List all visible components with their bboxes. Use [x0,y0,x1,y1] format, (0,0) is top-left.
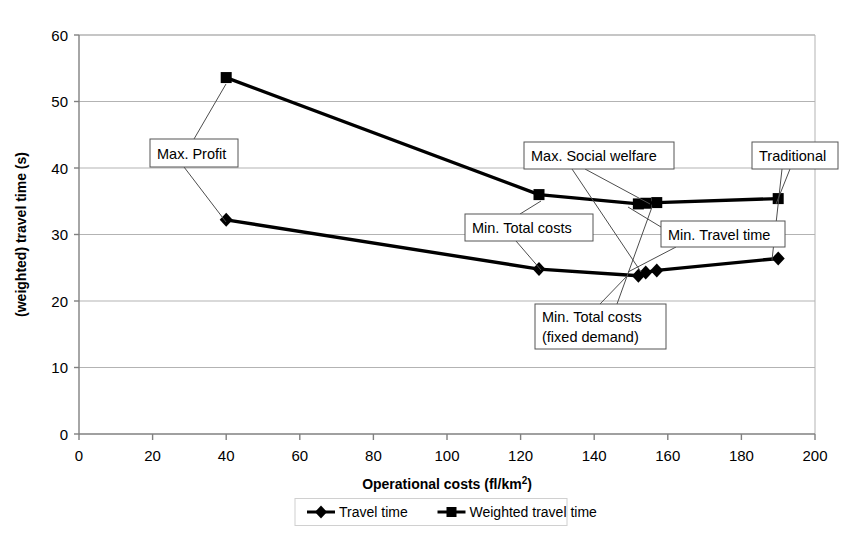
y-tick-label-60: 60 [51,27,68,44]
chart-legend: Travel timeWeighted travel time [295,499,597,526]
y-axis-title: (weighted) travel time (s) [13,152,29,317]
legend-label-0: Travel time [339,504,408,520]
y-tick-label-40: 40 [51,160,68,177]
callout-min-total-costs-fixed-demand: Min. Total costs(fixed demand) [535,304,666,349]
x-tick-label-40: 40 [218,447,235,464]
y-tick-label-20: 20 [51,293,68,310]
callout-label-min-travel-time-0: Min. Travel time [668,227,770,243]
callout-max-profit: Max. Profit [150,139,238,167]
callout-label-max-social-welfare-0: Max. Social welfare [531,148,657,164]
callout-max-social-welfare: Max. Social welfare [524,142,674,169]
callout-label-min-total-costs-fixed-demand-1: (fixed demand) [542,329,639,345]
x-tick-label-60: 60 [291,447,308,464]
x-tick-label-0: 0 [75,447,83,464]
x-tick-label-80: 80 [365,447,382,464]
x-tick-label-200: 200 [802,447,827,464]
marker-square-1-1 [534,189,545,200]
x-tick-label-180: 180 [729,447,754,464]
x-tick-label-120: 120 [508,447,533,464]
y-tick-label-30: 30 [51,226,68,243]
legend-marker-square-1 [447,507,457,517]
x-tick-label-160: 160 [655,447,680,464]
callout-min-travel-time: Min. Travel time [661,221,785,247]
x-axis-title: Operational costs (fl/km2) [362,475,532,492]
chart-background [0,0,862,553]
callout-traditional: Traditional [752,142,838,169]
marker-square-1-4 [651,197,662,208]
callout-label-min-total-costs-0: Min. Total costs [472,220,572,236]
y-tick-label-10: 10 [51,359,68,376]
x-tick-label-140: 140 [582,447,607,464]
callout-min-total-costs: Min. Total costs [465,214,593,241]
operational-costs-travel-time-chart: 0102030405060020406080100120140160180200… [0,0,862,553]
legend-label-1: Weighted travel time [470,504,598,520]
callout-label-traditional-0: Traditional [759,148,826,164]
callout-label-max-profit-0: Max. Profit [157,146,226,162]
y-tick-label-50: 50 [51,93,68,110]
y-tick-label-0: 0 [60,426,68,443]
x-tick-label-100: 100 [434,447,459,464]
chart-container: 0102030405060020406080100120140160180200… [0,0,862,553]
marker-square-1-0 [221,72,232,83]
callout-label-min-total-costs-fixed-demand-0: Min. Total costs [542,309,642,325]
x-tick-label-20: 20 [144,447,161,464]
